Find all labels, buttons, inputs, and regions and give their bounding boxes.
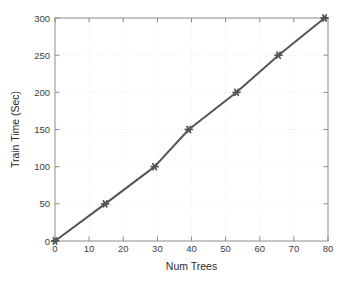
y-axis-title: Train Time (Sec) <box>9 91 21 168</box>
y-tick-label-100: 100 <box>34 161 50 172</box>
x-tick-label-70: 70 <box>289 243 300 254</box>
x-axis-title: Num Trees <box>166 260 217 272</box>
x-tick-label-20: 20 <box>118 243 129 254</box>
y-tick-label-200: 200 <box>34 87 50 98</box>
y-tick-label-0: 0 <box>45 236 50 247</box>
line-chart: 0 10 20 30 40 50 60 70 80 0 50 100 150 2… <box>0 0 350 282</box>
x-tick-label-30: 30 <box>152 243 163 254</box>
chart-figure: 0 10 20 30 40 50 60 70 80 0 50 100 150 2… <box>0 0 350 282</box>
y-tick-label-50: 50 <box>39 198 50 209</box>
x-tick-label-60: 60 <box>255 243 266 254</box>
y-tick-label-150: 150 <box>34 124 50 135</box>
x-tick-label-50: 50 <box>220 243 231 254</box>
x-tick-label-0: 0 <box>52 243 57 254</box>
x-tick-label-10: 10 <box>84 243 95 254</box>
x-tick-label-80: 80 <box>323 243 334 254</box>
y-tick-label-300: 300 <box>34 13 50 24</box>
x-tick-label-40: 40 <box>186 243 197 254</box>
y-tick-label-250: 250 <box>34 50 50 61</box>
